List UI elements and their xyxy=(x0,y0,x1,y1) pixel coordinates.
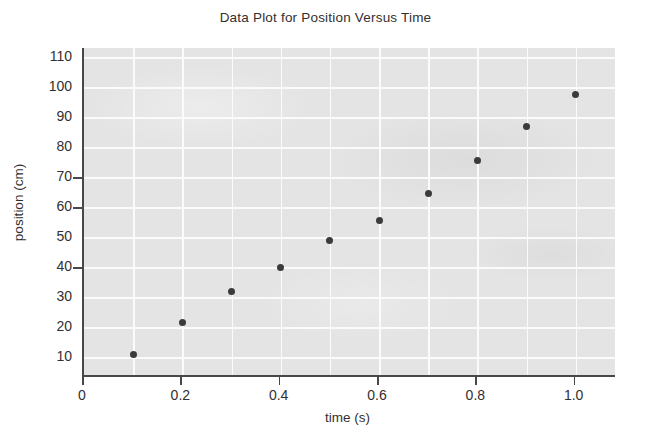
y-axis-title: position (cm) xyxy=(11,123,26,283)
x-axis-tick xyxy=(279,376,281,385)
data-point xyxy=(425,190,432,197)
gridline-vertical xyxy=(281,48,283,375)
y-axis-tick xyxy=(73,267,82,269)
y-axis-tick xyxy=(73,177,82,179)
x-axis-tick xyxy=(475,376,477,385)
gridline-horizontal xyxy=(84,147,615,149)
gridline-vertical xyxy=(232,48,234,375)
data-point xyxy=(228,288,235,295)
gridline-horizontal xyxy=(84,237,615,239)
data-point xyxy=(326,237,333,244)
gridline-horizontal xyxy=(84,57,615,59)
gridline-horizontal xyxy=(84,87,615,89)
gridline-vertical xyxy=(477,48,479,375)
gridline-horizontal xyxy=(84,207,615,209)
gridline-horizontal xyxy=(84,297,615,299)
data-point xyxy=(179,319,186,326)
data-point xyxy=(474,157,481,164)
gridline-horizontal xyxy=(84,357,615,359)
data-point xyxy=(277,264,284,271)
gridline-horizontal xyxy=(84,117,615,119)
panel-texture xyxy=(84,48,615,375)
chart-figure: Data Plot for Position Versus Time 00.20… xyxy=(0,0,651,437)
x-axis-tick xyxy=(574,376,576,385)
gridline-horizontal xyxy=(84,327,615,329)
data-point xyxy=(130,351,137,358)
data-point xyxy=(376,217,383,224)
x-axis-tick xyxy=(180,376,182,385)
y-axis-tick xyxy=(73,207,82,209)
x-axis-tick xyxy=(377,376,379,385)
x-axis-tick xyxy=(82,376,84,385)
plot-area xyxy=(82,48,615,377)
gridline-vertical xyxy=(133,48,135,375)
chart-title: Data Plot for Position Versus Time xyxy=(0,10,651,25)
gridline-vertical xyxy=(527,48,529,375)
x-axis-title: time (s) xyxy=(82,410,613,425)
gridline-horizontal xyxy=(84,267,615,269)
gridline-horizontal xyxy=(84,177,615,179)
gridline-vertical xyxy=(330,48,332,375)
data-point xyxy=(572,91,579,98)
data-point xyxy=(523,123,530,130)
gridline-vertical xyxy=(428,48,430,375)
gridline-vertical xyxy=(379,48,381,375)
